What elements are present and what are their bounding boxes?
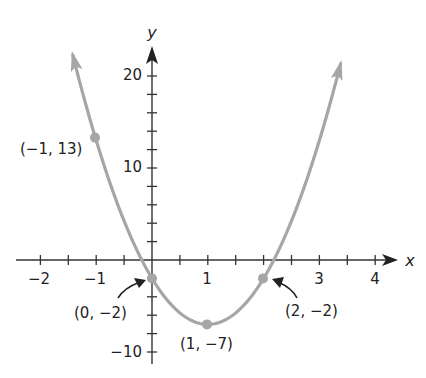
point-2-m2 [258, 273, 268, 283]
point-label: (−1, 13) [20, 140, 82, 158]
x-axis: −2 −1 1 3 4 x [16, 251, 415, 288]
y-tick-label: 20 [123, 66, 142, 84]
pointer-arrow-icon [118, 282, 140, 298]
y-tick-label: 10 [123, 158, 142, 176]
point-label: (1, −7) [180, 335, 233, 353]
point-1-m7 [202, 319, 212, 329]
data-points [90, 133, 268, 330]
x-tick-label: −2 [28, 270, 50, 288]
point-label: (0, −2) [74, 304, 127, 322]
point-label: (2, −2) [285, 302, 338, 320]
x-tick-label: −1 [84, 270, 106, 288]
parabola-chart: −2 −1 1 3 4 x 20 10 −10 y (−1, 13) (0, −… [0, 0, 426, 378]
y-tick-label: −10 [110, 343, 142, 361]
x-tick-label: 1 [202, 270, 212, 288]
point-annotations: (−1, 13) (0, −2) (1, −7) (2, −2) [20, 140, 338, 353]
x-tick-label: 3 [314, 270, 324, 288]
x-axis-label: x [404, 251, 415, 270]
pointer-arrowhead-icon [272, 277, 284, 288]
y-axis-label: y [146, 23, 157, 42]
point-0-m2 [147, 273, 157, 283]
point-m1-13 [90, 133, 100, 143]
x-tick-label: 4 [370, 270, 380, 288]
